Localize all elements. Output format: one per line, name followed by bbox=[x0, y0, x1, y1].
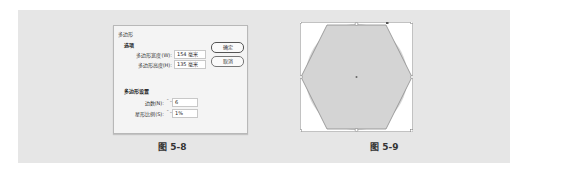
star-ratio-spinner-icon[interactable]: ⌃⌄ bbox=[166, 110, 170, 118]
caption-fig-5-8: 图 5-8 bbox=[158, 140, 186, 153]
caption-fig-5-9: 图 5-9 bbox=[370, 140, 398, 153]
star-ratio-label: 星形比例(S): bbox=[124, 110, 164, 117]
ok-button[interactable]: 确定 bbox=[211, 42, 244, 53]
star-ratio-row: 星形比例(S): ⌃⌄ 1% bbox=[124, 109, 198, 118]
height-row: 多边形高度(H): 135 毫米 bbox=[124, 60, 206, 69]
sides-label: 边数(N): bbox=[124, 99, 164, 106]
settings-group-label: 多边形设置 bbox=[124, 87, 149, 94]
width-row: 多边形宽度(W): 154 毫米 bbox=[124, 50, 206, 59]
options-group-label: 选项 bbox=[124, 41, 134, 48]
sides-input[interactable]: 6 bbox=[172, 98, 198, 107]
center-point-icon bbox=[356, 76, 358, 78]
star-ratio-input[interactable]: 1% bbox=[172, 109, 198, 118]
dialog-title: 多边形 bbox=[118, 30, 133, 37]
rotate-handle-icon[interactable] bbox=[386, 22, 389, 24]
sides-row: 边数(N): ⌃⌄ 6 bbox=[124, 98, 198, 107]
sides-spinner-icon[interactable]: ⌃⌄ bbox=[166, 99, 170, 107]
figure-panel bbox=[18, 10, 510, 163]
height-input[interactable]: 135 毫米 bbox=[174, 60, 206, 69]
hexagon-illustration bbox=[300, 22, 413, 132]
height-label: 多边形高度(H): bbox=[124, 61, 172, 68]
cancel-button[interactable]: 取消 bbox=[211, 56, 244, 67]
artboard bbox=[300, 22, 413, 132]
polygon-dialog: 多边形 选项 多边形宽度(W): 154 毫米 多边形高度(H): 135 毫米… bbox=[113, 25, 248, 134]
width-label: 多边形宽度(W): bbox=[124, 51, 172, 58]
width-input[interactable]: 154 毫米 bbox=[174, 50, 206, 59]
